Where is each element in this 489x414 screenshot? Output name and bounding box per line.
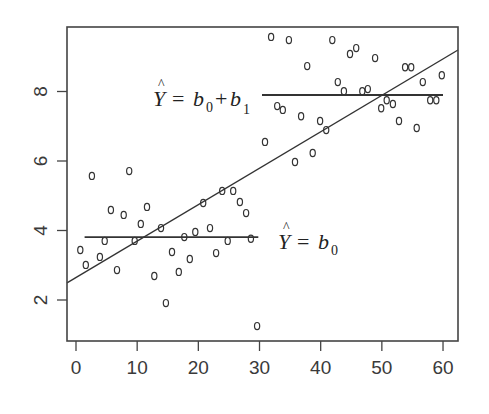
y-axis: 2468	[30, 86, 67, 305]
data-point	[225, 237, 230, 244]
data-point	[102, 237, 107, 244]
data-point	[269, 33, 274, 40]
data-point	[176, 268, 181, 275]
y-tick-label: 8	[30, 86, 51, 97]
data-point	[292, 158, 297, 165]
data-point	[390, 100, 395, 107]
scatter-plot: 0102030405060 2468 Y ^ = b 0 + b 1 Y ^ =…	[0, 0, 489, 414]
annotation-upper-formula: Y ^ = b 0 + b 1	[153, 77, 250, 117]
data-point	[335, 79, 340, 86]
data-point	[330, 37, 335, 44]
x-tick-label: 50	[371, 357, 392, 378]
x-tick-label: 20	[188, 357, 209, 378]
equals-sign: =	[172, 86, 184, 111]
data-point	[434, 97, 439, 104]
plot-frame	[67, 27, 458, 341]
data-point	[207, 225, 212, 232]
data-point	[428, 97, 433, 104]
data-point	[262, 138, 267, 145]
data-point	[310, 149, 315, 156]
x-axis: 0102030405060	[71, 341, 454, 378]
data-point	[83, 261, 88, 268]
y-tick-label: 4	[30, 225, 51, 236]
subscript-0: 0	[331, 243, 338, 258]
data-point	[255, 323, 260, 330]
plus-sign: +	[215, 86, 227, 111]
data-point	[318, 117, 323, 124]
data-point	[360, 88, 365, 95]
data-point	[138, 220, 143, 227]
data-point	[414, 124, 419, 131]
hat-symbol: ^	[283, 220, 290, 235]
data-point	[275, 103, 280, 110]
data-point	[152, 272, 157, 279]
data-point	[214, 250, 219, 257]
data-point	[163, 300, 168, 307]
data-point	[121, 211, 126, 218]
x-tick-label: 0	[71, 357, 82, 378]
data-point	[114, 267, 119, 274]
x-tick-label: 60	[432, 357, 453, 378]
hat-symbol: ^	[158, 77, 165, 92]
data-point	[439, 72, 444, 79]
b-symbol-2: b	[230, 86, 241, 111]
data-point	[286, 37, 291, 44]
data-point	[403, 64, 408, 71]
data-point	[169, 248, 174, 255]
data-point	[193, 228, 198, 235]
data-point	[354, 45, 359, 52]
data-point	[244, 210, 249, 217]
data-point	[108, 206, 113, 213]
b-symbol: b	[193, 86, 204, 111]
data-point	[237, 198, 242, 205]
data-point	[347, 50, 352, 57]
x-tick-label: 10	[127, 357, 148, 378]
data-point	[187, 255, 192, 262]
equals-sign: =	[297, 229, 309, 254]
data-point	[127, 168, 132, 175]
data-point	[420, 79, 425, 86]
data-point	[305, 63, 310, 70]
data-point	[409, 64, 414, 71]
data-point	[231, 187, 236, 194]
data-point	[97, 253, 102, 260]
y-tick-label: 6	[30, 156, 51, 167]
data-point	[379, 105, 384, 112]
data-point	[341, 88, 346, 95]
data-point	[89, 172, 94, 179]
data-point	[299, 113, 304, 120]
data-point	[396, 117, 401, 124]
b-symbol: b	[318, 229, 329, 254]
data-point	[78, 246, 83, 253]
regression-line	[67, 50, 458, 283]
data-point	[280, 106, 285, 113]
data-point	[144, 203, 149, 210]
x-tick-label: 40	[310, 357, 331, 378]
annotation-lower-formula: Y ^ = b 0	[278, 220, 338, 258]
data-points	[78, 33, 445, 329]
y-tick-label: 2	[30, 295, 51, 306]
data-point	[384, 97, 389, 104]
fit-lines	[67, 50, 458, 283]
subscript-0: 0	[206, 100, 213, 115]
data-point	[365, 86, 370, 93]
data-point	[373, 55, 378, 62]
subscript-1: 1	[243, 102, 250, 117]
x-tick-label: 30	[249, 357, 270, 378]
